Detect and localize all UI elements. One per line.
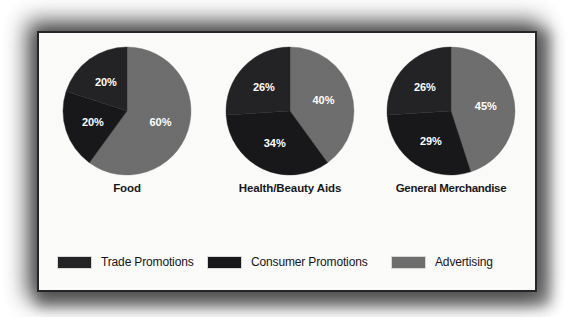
pie-food-title: Food	[59, 182, 195, 194]
pie-slice-value-label: 20%	[95, 76, 117, 88]
chart-panel: 60%20%20% Food 40%34%26% Health/Beauty A…	[37, 31, 537, 292]
legend-label-consumer-promotions: Consumer Promotions	[251, 255, 368, 269]
pie-slice-value-label: 45%	[475, 100, 497, 112]
pie-slice-value-label: 20%	[82, 116, 104, 128]
pie-health-title: Health/Beauty Aids	[222, 182, 358, 194]
pie-chart-health-beauty-aids: 40%34%26% Health/Beauty Aids	[222, 45, 358, 194]
pie-food-svg: 60%20%20%	[61, 45, 193, 177]
pie-health-slices	[226, 47, 354, 175]
legend-label-advertising: Advertising	[435, 255, 493, 269]
figure-root: 60%20%20% Food 40%34%26% Health/Beauty A…	[0, 0, 568, 317]
pie-slice-value-label: 29%	[420, 135, 442, 147]
pie-slice-value-label: 34%	[264, 137, 286, 149]
pie-chart-food: 60%20%20% Food	[59, 45, 195, 194]
pie-general-svg: 45%29%26%	[385, 45, 517, 177]
legend-item-trade-promotions: Trade Promotions	[57, 251, 194, 273]
pie-slice-value-label: 26%	[414, 81, 436, 93]
pie-general-title: General Merchandise	[381, 182, 521, 194]
pie-chart-general-merchandise: 45%29%26% General Merchandise	[381, 45, 521, 194]
legend-item-advertising: Advertising	[391, 251, 493, 273]
pie-slice-value-label: 60%	[149, 116, 171, 128]
legend-swatch-advertising	[391, 256, 426, 269]
chart-legend: Trade Promotions Consumer Promotions Adv…	[39, 251, 535, 273]
legend-swatch-consumer-promotions	[207, 256, 242, 269]
legend-label-trade-promotions: Trade Promotions	[101, 255, 194, 269]
pie-slice-value-label: 26%	[253, 81, 275, 93]
pie-slice-value-label: 40%	[312, 94, 334, 106]
pie-food-slices	[63, 47, 191, 175]
pie-health-svg: 40%34%26%	[224, 45, 356, 177]
legend-swatch-trade-promotions	[57, 256, 92, 269]
legend-item-consumer-promotions: Consumer Promotions	[207, 251, 368, 273]
